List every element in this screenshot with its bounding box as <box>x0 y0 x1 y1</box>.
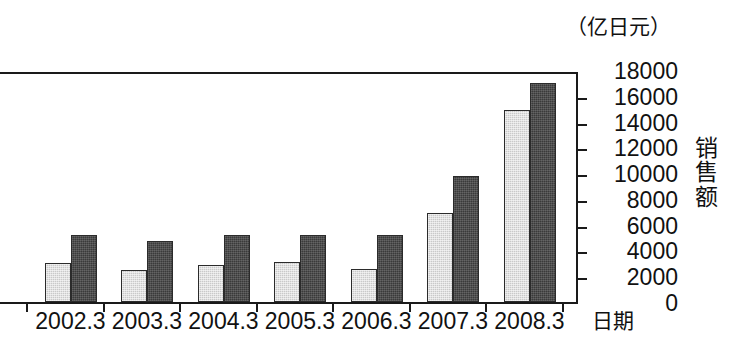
bar-light-series-2006.3 <box>351 269 377 303</box>
bars-layer <box>0 74 576 302</box>
bar-dark-series-2006.3 <box>377 235 403 302</box>
y-tick-label-6000: 6000 <box>592 215 678 238</box>
bar-dark-series-2004.3 <box>224 235 250 302</box>
x-axis-title: 日期 <box>592 310 634 331</box>
y-tick-label-8000: 8000 <box>592 189 678 212</box>
y-tick-16000 <box>578 98 587 100</box>
x-tick-label-2003.3: 2003.3 <box>103 310 191 333</box>
sales-bar-chart: （亿日元） 1800016000140001200010000800060004… <box>0 0 746 351</box>
bar-light-series-2004.3 <box>198 265 224 302</box>
bar-light-series-2003.3 <box>121 270 147 302</box>
y-tick-label-4000: 4000 <box>592 240 678 263</box>
bar-light-series-2002.3 <box>45 263 71 302</box>
y-tick-label-14000: 14000 <box>592 112 678 135</box>
y-tick-label-16000: 16000 <box>592 86 678 109</box>
y-tick-14000 <box>578 124 587 126</box>
y-tick-2000 <box>578 278 587 280</box>
y-tick-label-10000: 10000 <box>592 163 678 186</box>
unit-caption: （亿日元） <box>566 16 671 37</box>
x-tick-label-2005.3: 2005.3 <box>256 310 344 333</box>
x-tick-label-2008.3: 2008.3 <box>486 310 574 333</box>
y-tick-10000 <box>578 175 587 177</box>
x-tick-label-2007.3: 2007.3 <box>409 310 497 333</box>
x-tick-label-2006.3: 2006.3 <box>333 310 421 333</box>
y-tick-8000 <box>578 201 587 203</box>
plot-area <box>0 72 578 304</box>
y-axis-title: 销售额 <box>692 136 720 209</box>
y-tick-label-2000: 2000 <box>592 266 678 289</box>
bar-light-series-2005.3 <box>274 262 300 302</box>
bar-dark-series-2007.3 <box>453 176 479 302</box>
y-tick-6000 <box>578 227 587 229</box>
bar-dark-series-2002.3 <box>71 235 97 302</box>
bar-dark-series-2008.3 <box>530 83 556 302</box>
y-tick-label-12000: 12000 <box>592 137 678 160</box>
bar-dark-series-2003.3 <box>147 241 173 302</box>
bar-light-series-2007.3 <box>427 213 453 302</box>
y-tick-label-18000: 18000 <box>592 60 678 83</box>
bar-dark-series-2005.3 <box>300 235 326 302</box>
x-tick-label-2004.3: 2004.3 <box>180 310 268 333</box>
y-tick-12000 <box>578 149 587 151</box>
x-tick-label-2002.3: 2002.3 <box>27 310 115 333</box>
bar-light-series-2008.3 <box>504 110 530 302</box>
y-tick-4000 <box>578 252 587 254</box>
